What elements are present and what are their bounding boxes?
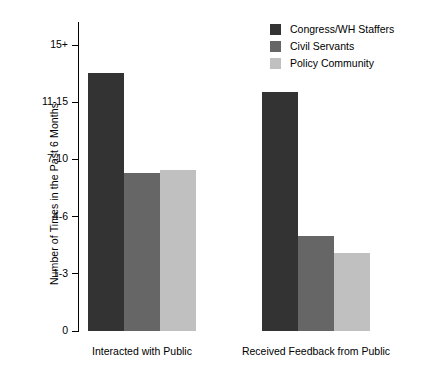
legend-swatch-icon — [270, 41, 281, 52]
bar — [298, 236, 334, 331]
legend-item: Congress/WH Staffers — [270, 21, 394, 38]
bar-chart: Number of Times in the Past 6 Months 15+… — [0, 0, 437, 383]
bar — [160, 170, 196, 331]
bar — [124, 173, 160, 331]
legend-item: Civil Servants — [270, 38, 394, 55]
bar — [334, 253, 370, 331]
chart-legend: Congress/WH StaffersCivil ServantsPolicy… — [270, 21, 394, 72]
legend-label: Civil Servants — [290, 41, 354, 52]
legend-label: Policy Community — [290, 58, 374, 69]
bar — [262, 92, 298, 331]
legend-item: Policy Community — [270, 55, 394, 72]
legend-swatch-icon — [270, 58, 281, 69]
legend-swatch-icon — [270, 24, 281, 35]
bar — [88, 73, 124, 331]
legend-label: Congress/WH Staffers — [290, 24, 394, 35]
x-axis-category-label: Received Feedback from Public — [206, 345, 426, 357]
